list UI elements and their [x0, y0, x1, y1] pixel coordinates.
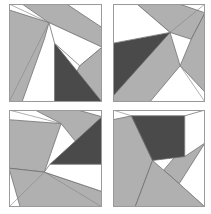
tile-top-right-artwork [113, 4, 205, 102]
tile-bottom-right-artwork [113, 110, 205, 207]
tile-grid-canvas [0, 0, 211, 214]
tile-bottom-left [9, 110, 102, 207]
tile-bottom-left-artwork [9, 110, 102, 207]
tile-top-left [9, 4, 102, 102]
tile-bottom-right [113, 110, 205, 207]
tile-top-left-artwork [9, 4, 102, 102]
tile-top-right [113, 4, 205, 102]
